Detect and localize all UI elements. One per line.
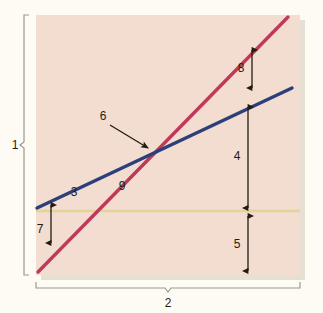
- horizontal-bracket-icon: [36, 282, 300, 292]
- label-arrow-4: 4: [234, 149, 241, 163]
- label-arrow-5: 5: [234, 237, 241, 251]
- label-arrow-7: 7: [37, 222, 44, 236]
- label-intersection: 6: [100, 109, 107, 123]
- label-arrow-8: 8: [238, 61, 245, 75]
- label-red-line: 9: [119, 179, 126, 193]
- figure-container: 1 2 6 3 9 7 8 4 5: [0, 0, 323, 313]
- axis-label-vertical: 1: [12, 138, 19, 152]
- label-blue-line: 3: [71, 185, 78, 199]
- vertical-bracket-icon: [20, 15, 29, 275]
- axis-label-horizontal: 2: [165, 296, 172, 310]
- line-diagram-svg: 1 2 6 3 9 7 8 4 5: [0, 0, 323, 313]
